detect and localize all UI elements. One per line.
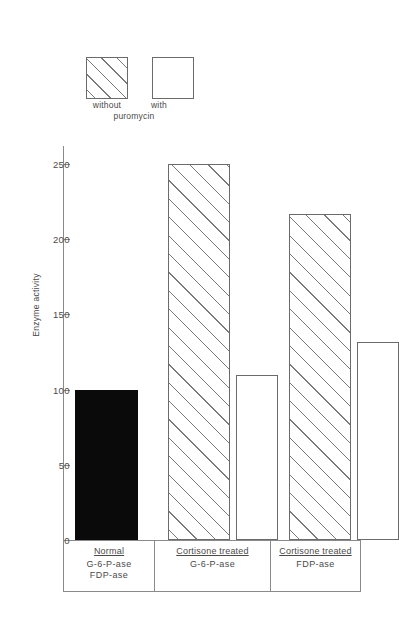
y-tick-label-wrap-150: 150	[0, 309, 70, 310]
y-tick-label-wrap-0: 0	[0, 535, 70, 536]
bar-cortisone-fdpase-with-puromycin	[357, 342, 399, 541]
x-category-normal-head: Normal	[94, 546, 124, 556]
legend-label-puromycin: puromycin	[86, 111, 182, 121]
x-category-cortisone-gpase-head: Cortisone treated	[176, 546, 248, 556]
legend-swatch-with-puromycin	[152, 57, 194, 99]
y-tick-label-wrap-250: 250	[0, 159, 70, 160]
x-category-cortisone-fdpase-sub-1: FDP-ase	[296, 559, 334, 569]
legend-swatch-row	[86, 57, 194, 99]
bar-cortisone-gpase-without-puromycin	[168, 164, 230, 540]
legend-labels: without with puromycin	[86, 100, 206, 121]
bar-cortisone-gpase-with-puromycin	[236, 375, 278, 540]
plot-area	[64, 146, 361, 540]
y-tick-label-wrap-50: 50	[0, 460, 70, 461]
bar-normal-reference	[75, 390, 138, 540]
legend-label-with: with	[138, 100, 180, 110]
y-axis-title: Enzyme activity	[31, 245, 41, 365]
x-category-cortisone-fdpase: Cortisone treated FDP-ase	[271, 540, 361, 592]
chart-legend: without with puromycin	[86, 57, 194, 99]
x-axis-category-row: Normal G-6-P-ase FDP-ase Cortisone treat…	[63, 540, 361, 592]
legend-swatch-without-puromycin	[86, 57, 128, 99]
x-category-cortisone-gpase: Cortisone treated G-6-P-ase	[155, 540, 271, 592]
x-category-cortisone-gpase-sub-1: G-6-P-ase	[190, 559, 235, 569]
x-category-normal-sub-1: G-6-P-ase	[86, 559, 131, 569]
legend-label-without: without	[86, 100, 128, 110]
x-category-normal-sub-2: FDP-ase	[90, 570, 128, 580]
legend-label-row: without with	[86, 100, 206, 110]
x-category-normal: Normal G-6-P-ase FDP-ase	[63, 540, 155, 592]
y-tick-label-wrap-100: 100	[0, 385, 70, 386]
bar-cortisone-fdpase-without-puromycin	[289, 214, 351, 540]
y-tick-label-wrap-200: 200	[0, 234, 70, 235]
x-category-cortisone-fdpase-head: Cortisone treated	[279, 546, 351, 556]
